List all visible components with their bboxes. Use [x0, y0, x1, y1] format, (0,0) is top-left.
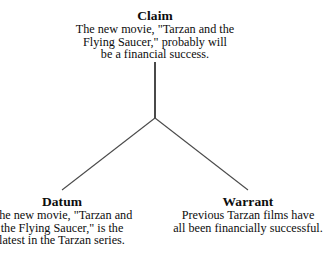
node-warrant: Warrant Previous Tarzan films have all b…	[168, 194, 328, 234]
connector-branch-warrant	[155, 118, 248, 190]
node-warrant-line-1: Previous Tarzan films have	[168, 209, 328, 222]
node-claim-line-1: The new movie, "Tarzan and the	[0, 23, 310, 36]
node-claim-heading: Claim	[0, 8, 310, 23]
argument-diagram: Claim The new movie, "Tarzan and the Fly…	[0, 0, 330, 263]
node-datum-line-1: The new movie, "Tarzan and	[0, 209, 172, 222]
node-warrant-heading: Warrant	[168, 194, 328, 209]
node-datum: Datum The new movie, "Tarzan and the Fly…	[0, 194, 172, 247]
node-warrant-body: Previous Tarzan films have all been fina…	[168, 209, 328, 234]
connector-branch-datum	[62, 118, 155, 190]
node-claim-body: The new movie, "Tarzan and the Flying Sa…	[0, 23, 310, 61]
node-claim-line-3: be a financial success.	[0, 48, 310, 61]
node-warrant-line-2: all been financially successful.	[168, 222, 328, 235]
node-datum-body: The new movie, "Tarzan and the Flying Sa…	[0, 209, 172, 247]
node-claim: Claim The new movie, "Tarzan and the Fly…	[0, 8, 310, 61]
node-datum-heading: Datum	[0, 194, 172, 209]
node-datum-line-3: latest in the Tarzan series.	[0, 234, 172, 247]
